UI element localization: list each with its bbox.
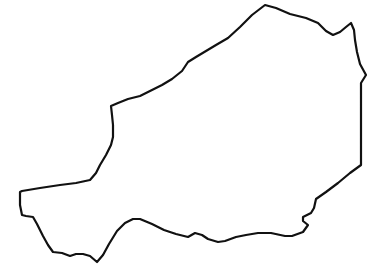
map-canvas [0,0,376,273]
map-svg [0,0,376,273]
map-background [0,0,376,273]
